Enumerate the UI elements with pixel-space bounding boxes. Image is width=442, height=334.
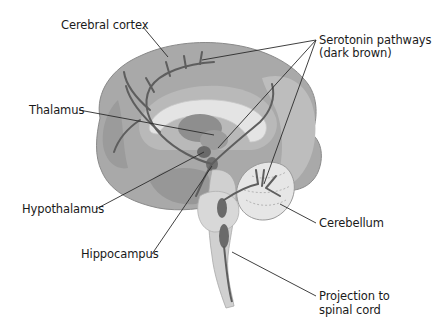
label-projection: Projection to bbox=[319, 290, 390, 303]
label-spinal-cord: spinal cord bbox=[319, 304, 381, 317]
label-hippocampus: Hippocampus bbox=[81, 248, 159, 261]
label-cerebral-cortex: Cerebral cortex bbox=[61, 19, 148, 32]
label-serotonin-color: (dark brown) bbox=[319, 47, 392, 60]
raphe-nucleus-lower bbox=[219, 224, 229, 248]
leader-cerebellum bbox=[280, 204, 316, 223]
label-cerebellum: Cerebellum bbox=[319, 217, 384, 230]
leader-projection bbox=[232, 252, 316, 296]
label-thalamus: Thalamus bbox=[29, 104, 84, 117]
raphe-nucleus-mid bbox=[217, 198, 227, 218]
label-hypothalamus: Hypothalamus bbox=[22, 203, 104, 216]
